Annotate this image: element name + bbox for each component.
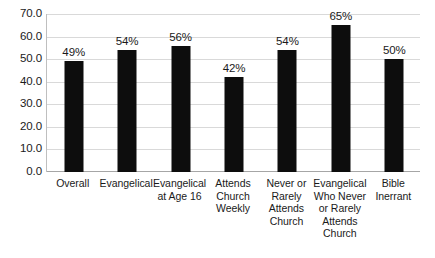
bar-value-label: 49%	[62, 46, 85, 58]
bar[interactable]	[64, 61, 83, 172]
x-axis-category-label: Never or Rarely Attends Church	[260, 177, 313, 227]
y-axis-tick-label: 20.0	[2, 121, 42, 133]
x-axis-category-label: Bible Inerrant	[367, 177, 420, 202]
y-axis-tick-label: 60.0	[2, 31, 42, 43]
y-axis-tick-label: 70.0	[2, 8, 42, 20]
bar-slot: 54%	[261, 14, 314, 172]
x-axis-category-labels: OverallEvangelicalEvangelical at Age 16A…	[46, 177, 420, 255]
bar-chart: 70.060.050.040.030.020.010.00.0 49%54%56…	[0, 0, 435, 258]
bar[interactable]	[118, 50, 137, 172]
bar[interactable]	[278, 50, 297, 172]
x-axis-category-label: Attends Church Weekly	[206, 177, 259, 215]
bar-value-label: 42%	[223, 62, 246, 74]
y-axis-tick-label: 40.0	[2, 76, 42, 88]
x-axis-category-label: Evangelical	[99, 177, 152, 190]
bar[interactable]	[385, 59, 404, 172]
bar[interactable]	[224, 77, 243, 172]
bar-slot: 49%	[47, 14, 100, 172]
y-axis: 70.060.050.040.030.020.010.00.0	[0, 0, 42, 258]
bar-value-label: 56%	[169, 31, 192, 43]
bar[interactable]	[331, 25, 350, 172]
plot-area: 49%54%56%42%54%65%50%	[46, 14, 420, 172]
bar-value-label: 54%	[276, 35, 299, 47]
bar-slot: 54%	[100, 14, 153, 172]
bar-slot: 65%	[314, 14, 367, 172]
x-axis-category-label: Evangelical Who Never or Rarely Attends …	[313, 177, 366, 240]
bar-value-label: 50%	[383, 44, 406, 56]
bar-value-label: 54%	[116, 35, 139, 47]
x-axis-category-label: Evangelical at Age 16	[153, 177, 206, 202]
y-axis-tick-label: 30.0	[2, 98, 42, 110]
bar[interactable]	[171, 46, 190, 172]
bar-slot: 42%	[207, 14, 260, 172]
y-axis-tick-label: 0.0	[2, 166, 42, 178]
bar-value-label: 65%	[329, 10, 352, 22]
bar-slot: 50%	[368, 14, 421, 172]
bar-slot: 56%	[154, 14, 207, 172]
y-axis-tick-label: 50.0	[2, 53, 42, 65]
y-axis-tick-label: 10.0	[2, 143, 42, 155]
x-axis-category-label: Overall	[46, 177, 99, 190]
